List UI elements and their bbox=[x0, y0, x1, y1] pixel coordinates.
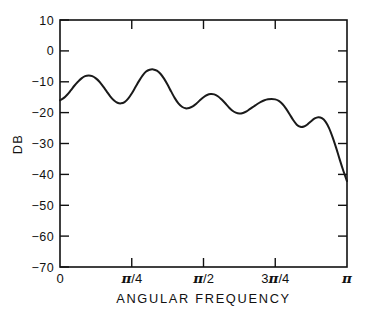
y-tick-label-m10: −10 bbox=[32, 75, 54, 89]
y-tick-label-0: 0 bbox=[47, 44, 54, 58]
x-tick-label-3pi-over-4: 3π/4 bbox=[261, 270, 289, 286]
plot-background bbox=[0, 0, 371, 313]
y-tick-label-m20: −20 bbox=[32, 106, 54, 120]
x-axis-title: ANGULAR FREQUENCY bbox=[116, 291, 291, 306]
y-tick-label-m40: −40 bbox=[32, 168, 54, 182]
x-tick-label-0: 0 bbox=[56, 271, 63, 286]
y-tick-label-m60: −60 bbox=[32, 230, 54, 244]
y-axis-title: DB bbox=[10, 134, 25, 154]
y-tick-label-10: 10 bbox=[39, 14, 54, 28]
chart-figure: 10 0 −10 −20 −30 −40 −50 −60 −70 DB 0 π/… bbox=[0, 0, 371, 313]
x-tick-label-pi: π bbox=[341, 270, 353, 286]
x-tick-label-pi-over-4: π/4 bbox=[120, 270, 142, 286]
x-tick-label-pi-over-2: π/2 bbox=[192, 270, 214, 286]
frequency-response-plot: 10 0 −10 −20 −30 −40 −50 −60 −70 DB 0 π/… bbox=[0, 0, 371, 313]
y-tick-label-m30: −30 bbox=[32, 137, 54, 151]
y-tick-label-m70: −70 bbox=[32, 261, 54, 275]
y-tick-label-m50: −50 bbox=[32, 199, 54, 213]
